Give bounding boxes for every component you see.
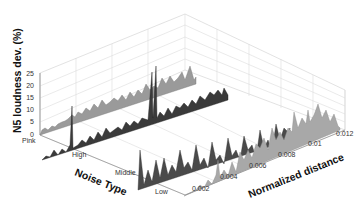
waterfall-chart: 0 5 10 15 20 25 Pink High Middle Low 0.0… [0,0,363,205]
category-middle: Middle [115,169,136,176]
x-tick-0.002: 0.002 [192,185,210,192]
x-tick-0.006: 0.006 [249,162,267,169]
z-axis-ticks: 0 5 10 15 20 25 [26,70,34,138]
z-tick-20: 20 [26,82,34,89]
x-tick-0.01: 0.01 [308,140,322,147]
category-high: High [72,151,87,159]
category-pink: Pink [22,137,36,144]
x-tick-0.008: 0.008 [278,151,296,158]
x-tick-0.012: 0.012 [336,130,354,137]
z-axis-label: N5 loudness dev. (%) [11,28,23,133]
z-tick-25: 25 [26,70,34,77]
z-tick-15: 15 [26,94,34,101]
x-tick-0.004: 0.004 [220,173,238,180]
z-tick-5: 5 [30,118,34,125]
z-tick-10: 10 [26,106,34,113]
category-low: Low [155,188,169,195]
